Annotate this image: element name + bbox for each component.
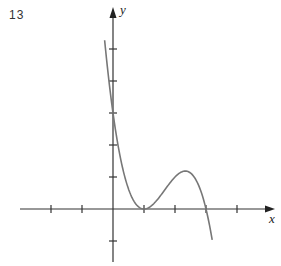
function-graph: x y xyxy=(0,0,281,266)
y-axis-arrow-icon xyxy=(110,7,117,18)
axes xyxy=(20,14,268,262)
function-curve xyxy=(105,40,213,240)
x-axis-label: x xyxy=(268,211,275,226)
y-axis-label: y xyxy=(118,2,126,17)
